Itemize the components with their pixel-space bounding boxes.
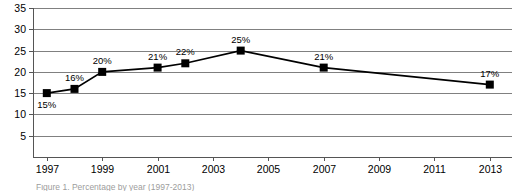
y-axis-tick-label: 20: [14, 66, 26, 78]
data-point-marker: [486, 81, 494, 89]
x-axis-tick-label: 2001: [147, 163, 171, 175]
x-axis-tick-label: 1999: [91, 163, 115, 175]
x-axis-tick-label: 2013: [479, 163, 503, 175]
data-point-marker: [237, 47, 245, 55]
data-point-label: 16%: [65, 72, 85, 83]
y-axis-tick-label: 35: [14, 2, 26, 14]
data-point-label: 22%: [176, 46, 196, 57]
y-axis-tick-label: 15: [14, 87, 26, 99]
data-point-label: 25%: [231, 34, 251, 45]
y-axis-tick-label: 30: [14, 23, 26, 35]
data-point-marker: [71, 85, 79, 93]
data-point-label: 15%: [37, 99, 57, 110]
data-point-label: 21%: [314, 51, 334, 62]
data-point-marker: [154, 64, 162, 72]
x-axis-tick-label: 2007: [313, 163, 337, 175]
x-axis-tick-label: 2011: [423, 163, 446, 175]
y-axis: 5101520253035: [14, 2, 33, 142]
data-point-label: 21%: [148, 51, 168, 62]
x-axis: 199719992001200320052007200920112013: [36, 157, 503, 175]
data-point-marker: [181, 59, 189, 67]
data-point-marker: [98, 68, 106, 76]
plot-area-background: [33, 8, 512, 157]
x-axis-tick-label: 2009: [368, 163, 392, 175]
y-axis-tick-label: 25: [14, 45, 26, 57]
x-axis-tick-label: 2005: [257, 163, 281, 175]
data-point-marker: [43, 89, 51, 97]
chart-figure: 5101520253035 19971999200120032005200720…: [0, 0, 514, 191]
x-axis-tick-label: 2003: [202, 163, 226, 175]
line-chart: 5101520253035 19971999200120032005200720…: [0, 0, 514, 191]
data-point-label: 17%: [480, 68, 500, 79]
x-axis-tick-label: 1997: [36, 163, 60, 175]
y-axis-tick-label: 5: [20, 130, 26, 142]
data-point-marker: [320, 64, 328, 72]
y-axis-tick-label: 10: [14, 108, 26, 120]
figure-caption: Figure 1. Percentage by year (1997-2013): [36, 184, 194, 191]
caption-strip: Figure 1. Percentage by year (1997-2013): [0, 184, 514, 191]
data-point-label: 20%: [93, 55, 113, 66]
